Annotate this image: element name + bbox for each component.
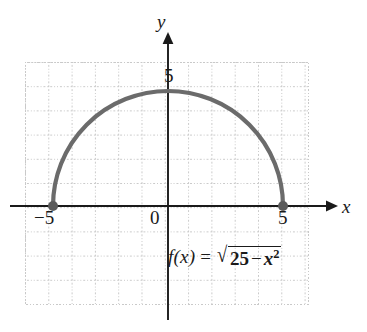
- function-equation: f(x) = √ 25−x2: [168, 246, 281, 270]
- tick-label-origin: 0: [150, 208, 160, 227]
- equation-function-name: f(x): [168, 246, 195, 268]
- equation-exponent: 2: [273, 247, 279, 261]
- equation-constant: 25: [230, 248, 249, 269]
- axis-label-y: y: [157, 12, 165, 31]
- axis-label-x: x: [342, 197, 350, 216]
- tick-label-y-5: 5: [164, 66, 174, 85]
- equation-operator: −: [251, 248, 262, 269]
- radical-sign-icon: √: [217, 245, 227, 269]
- figure-semicircle-plot: y x 0 5 −5 5 f(x) = √ 25−x2: [0, 0, 367, 332]
- tick-label-x-5: 5: [278, 208, 288, 227]
- tick-label-x-neg5: −5: [34, 208, 54, 227]
- equation-equals-sign: =: [200, 246, 211, 268]
- equation-radical: √ 25−x2: [216, 246, 282, 270]
- equation-variable: x: [264, 248, 274, 269]
- equation-radicand: 25−x2: [228, 246, 281, 270]
- plot-canvas: [0, 0, 367, 332]
